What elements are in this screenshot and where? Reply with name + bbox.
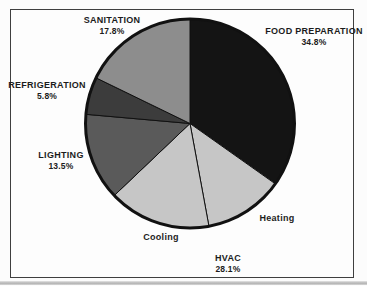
label-hvac-name: HVAC	[215, 253, 241, 264]
label-heating-name: Heating	[259, 213, 294, 224]
scan-edge-shadow	[0, 281, 367, 285]
label-hvac-pct: 28.1%	[215, 264, 241, 274]
energy-use-pie-figure: SANITATION 17.8% FOOD PREPARATION 34.8% …	[0, 0, 367, 286]
label-heating: Heating	[259, 213, 294, 224]
label-food-preparation-pct: 34.8%	[265, 37, 362, 47]
label-food-preparation-name: FOOD PREPARATION	[265, 26, 362, 37]
label-cooling-name: Cooling	[143, 232, 179, 243]
label-lighting: LIGHTING 13.5%	[38, 150, 83, 171]
label-refrigeration-pct: 5.8%	[8, 91, 86, 101]
label-lighting-pct: 13.5%	[38, 161, 83, 171]
label-cooling: Cooling	[143, 232, 179, 243]
label-sanitation: SANITATION 17.8%	[84, 15, 141, 36]
label-food-preparation: FOOD PREPARATION 34.8%	[265, 26, 362, 47]
label-refrigeration-name: REFRIGERATION	[8, 80, 86, 91]
label-sanitation-pct: 17.8%	[84, 26, 141, 36]
label-sanitation-name: SANITATION	[84, 15, 141, 26]
label-lighting-name: LIGHTING	[38, 150, 83, 161]
label-refrigeration: REFRIGERATION 5.8%	[8, 80, 86, 101]
label-hvac: HVAC 28.1%	[215, 253, 241, 274]
